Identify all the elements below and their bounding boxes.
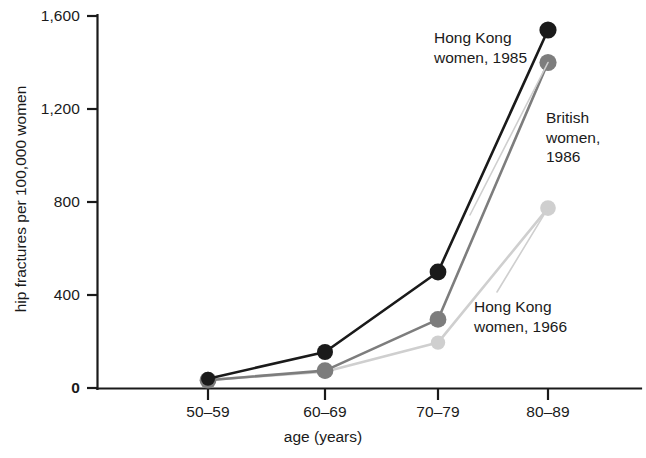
x-axis-title: age (years) bbox=[0, 428, 646, 446]
annotation-british-1986: British women, 1986 bbox=[546, 108, 600, 167]
data-point-hong-kong-1985-70-79 bbox=[430, 264, 447, 281]
data-point-hong-kong-1966-70-79 bbox=[431, 335, 445, 349]
annotation-hong-kong-1966: Hong Kong women, 1966 bbox=[474, 297, 567, 336]
series-british-1986 bbox=[200, 54, 557, 389]
y-axis-title: hip fractures per 100,000 women bbox=[12, 49, 30, 349]
series-hong-kong-1966 bbox=[201, 200, 556, 387]
hip-fracture-line-chart: 1,600 1,200 800 400 0 50–59 60–69 70–79 … bbox=[0, 0, 646, 458]
x-tick-marks bbox=[208, 389, 548, 400]
y-tick-label-1600: 1,600 bbox=[8, 7, 80, 25]
y-tick-label-0: 0 bbox=[8, 379, 80, 397]
x-tick-label-80-89: 80–89 bbox=[488, 403, 608, 421]
y-tick-marks bbox=[87, 16, 97, 388]
chart-plot-area bbox=[0, 0, 646, 458]
data-point-hong-kong-1985-60-69 bbox=[317, 344, 333, 360]
annotation-hong-kong-1985: Hong Kong women, 1985 bbox=[434, 28, 527, 67]
data-point-hong-kong-1985-80-89 bbox=[539, 21, 556, 38]
x-tick-label-70-79: 70–79 bbox=[378, 403, 498, 421]
data-point-british-1986-70-79 bbox=[430, 311, 447, 328]
data-point-hong-kong-1985-50-59 bbox=[201, 372, 215, 386]
x-tick-label-50-59: 50–59 bbox=[148, 403, 268, 421]
leader-line-hong-kong-1966 bbox=[497, 208, 548, 292]
leader-line-hong-kong-1985 bbox=[470, 63, 548, 216]
x-tick-label-60-69: 60–69 bbox=[265, 403, 385, 421]
series-line-hong-kong-1966 bbox=[208, 208, 548, 380]
data-point-british-1986-60-69 bbox=[317, 362, 334, 379]
